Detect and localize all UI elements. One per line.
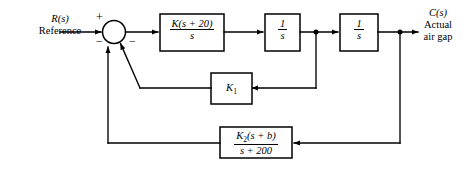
output-label: C(s) Actual air gap: [404, 7, 472, 42]
sum-sign-inner-feedback-minus: −: [129, 35, 136, 48]
integrator2-numerator: 1: [354, 18, 363, 30]
inner-feedback-gain-block-text: K1: [211, 82, 252, 96]
outer-feedback-compensator-block-text: K2(s + b) s + 200: [220, 130, 292, 156]
inner-feedback-gain-subscript: 1: [233, 87, 237, 96]
integrator1-denominator: s: [278, 30, 287, 41]
output-description-line2: air gap: [424, 31, 453, 42]
tap-point-output: [398, 30, 403, 35]
block-diagram: R(s) Reference C(s) Actual air gap + − −…: [0, 0, 475, 170]
integrator2-block-text: 1 s: [340, 18, 378, 41]
compensator-numerator: K2(s + b): [234, 130, 277, 145]
reference-description: Reference: [39, 25, 82, 36]
integrator1-numerator: 1: [278, 18, 287, 30]
controller-numerator: K(s + 20): [170, 18, 215, 30]
reference-input-label: R(s) Reference: [24, 13, 96, 37]
controller-denominator: s: [170, 30, 215, 41]
wire-diagonal-to-sum: [121, 44, 141, 89]
reference-symbol: R(s): [51, 13, 69, 24]
output-description-line1: Actual: [424, 19, 452, 30]
integrator2-denominator: s: [354, 30, 363, 41]
sum-sign-input-plus: +: [96, 11, 103, 24]
tap-point-integrator1: [314, 30, 319, 35]
sum-sign-outer-feedback-minus: −: [96, 35, 103, 48]
compensator-zero-term: (s + b): [247, 130, 276, 141]
integrator1-block-text: 1 s: [265, 18, 300, 41]
compensator-denominator: s + 200: [234, 145, 277, 156]
controller-block-text: K(s + 20) s: [160, 18, 224, 41]
summing-junction-circle: [103, 21, 126, 44]
output-symbol: C(s): [429, 7, 447, 18]
